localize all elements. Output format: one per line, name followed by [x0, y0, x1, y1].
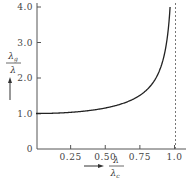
- svg-text:λg: λg: [7, 51, 18, 63]
- y-tick-label: 1.0: [17, 109, 33, 119]
- svg-text:λ: λ: [9, 65, 16, 75]
- y-tick-label: 0: [27, 144, 33, 154]
- data-curve: [36, 7, 170, 114]
- x-tick-label: 1.0: [167, 152, 183, 162]
- y-tick-label: 3.0: [17, 38, 33, 48]
- y-axis-label: λg λ: [6, 51, 21, 75]
- x-ticks: 0.250.500.751.0: [60, 145, 183, 162]
- right-arrow-icon: [84, 164, 104, 168]
- y-tick-label: 4.0: [17, 2, 33, 12]
- x-tick-label: 0.25: [60, 152, 82, 162]
- svg-text:λc: λc: [109, 168, 120, 179]
- up-arrow-icon: [8, 77, 12, 100]
- svg-text:λ: λ: [112, 155, 119, 165]
- y-tick-label: 2.0: [17, 73, 33, 83]
- x-tick-label: 0.75: [129, 152, 151, 162]
- chart: 01.02.03.04.0 0.250.500.751.0 λg λ λ λc: [0, 0, 189, 183]
